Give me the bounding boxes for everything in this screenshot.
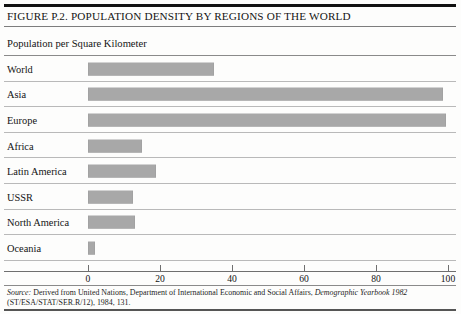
chart-row: Asia bbox=[0, 82, 461, 108]
x-axis-tick bbox=[232, 265, 233, 271]
category-label-oceania: Oceania bbox=[7, 242, 41, 253]
bar-ussr bbox=[88, 190, 133, 203]
top-rule bbox=[4, 4, 456, 7]
x-axis-tick-label: 40 bbox=[227, 273, 237, 284]
x-axis: 020406080100 bbox=[0, 262, 461, 284]
x-axis-tick bbox=[88, 265, 89, 271]
title-underline-rule bbox=[4, 26, 456, 27]
x-axis-tick bbox=[376, 265, 377, 271]
x-axis-line bbox=[4, 271, 456, 272]
x-axis-tick-label: 0 bbox=[86, 273, 91, 284]
chart-row: Africa bbox=[0, 133, 461, 159]
chart-row: World bbox=[0, 56, 461, 82]
bar-africa bbox=[88, 139, 142, 152]
source-top-rule bbox=[4, 285, 456, 286]
bottom-rule bbox=[4, 309, 456, 311]
bar-oceania bbox=[88, 241, 95, 254]
chart-row: Oceania bbox=[0, 235, 461, 261]
source-text-b: (ST/ESA/STAT/SER.R/12), 1984, 131. bbox=[7, 298, 130, 307]
figure-title: FIGURE P.2. POPULATION DENSITY BY REGION… bbox=[7, 10, 351, 22]
category-label-north-america: North America bbox=[7, 217, 69, 228]
row-separator bbox=[4, 260, 456, 261]
category-label-latin-america: Latin America bbox=[7, 166, 67, 177]
source-text-a: Derived from United Nations, Department … bbox=[31, 288, 314, 297]
category-label-asia: Asia bbox=[7, 89, 26, 100]
category-label-ussr: USSR bbox=[7, 191, 33, 202]
source-note: Source: Derived from United Nations, Dep… bbox=[7, 288, 455, 308]
chart-row: USSR bbox=[0, 184, 461, 210]
bar-chart-plot: WorldAsiaEuropeAfricaLatin AmericaUSSRNo… bbox=[0, 56, 461, 262]
category-label-world: World bbox=[7, 63, 33, 74]
figure-subtitle: Population per Square Kilometer bbox=[7, 38, 147, 49]
chart-row: North America bbox=[0, 210, 461, 236]
source-label: Source: bbox=[7, 288, 31, 297]
bar-europe bbox=[88, 113, 446, 126]
category-label-africa: Africa bbox=[7, 140, 34, 151]
x-axis-tick bbox=[160, 265, 161, 271]
x-axis-tick-label: 20 bbox=[155, 273, 165, 284]
bar-latin-america bbox=[88, 165, 156, 178]
x-axis-tick-label: 80 bbox=[371, 273, 381, 284]
x-axis-tick-label: 100 bbox=[441, 273, 455, 284]
chart-row: Europe bbox=[0, 107, 461, 133]
chart-row: Latin America bbox=[0, 158, 461, 184]
bar-world bbox=[88, 62, 214, 75]
category-label-europe: Europe bbox=[7, 114, 37, 125]
bar-north-america bbox=[88, 216, 135, 229]
source-publication-title: Demographic Yearbook 1982 bbox=[315, 288, 408, 297]
bar-asia bbox=[88, 88, 443, 101]
x-axis-tick bbox=[304, 265, 305, 271]
x-axis-tick-label: 60 bbox=[299, 273, 309, 284]
x-axis-tick bbox=[448, 265, 449, 271]
figure-page: FIGURE P.2. POPULATION DENSITY BY REGION… bbox=[0, 0, 461, 314]
